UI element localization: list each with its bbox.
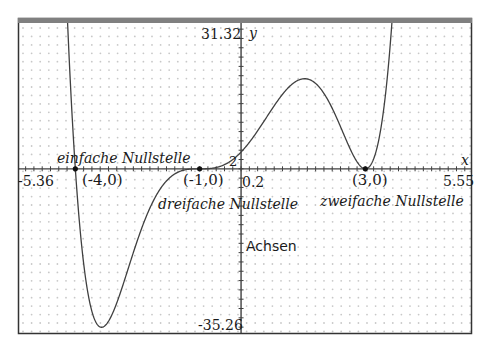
y-max-label: 31.32: [201, 27, 241, 41]
y-axis-name: y: [249, 26, 257, 40]
top-bar: [18, 18, 472, 23]
point-label-3: (3,0): [352, 173, 388, 188]
x-tick-label: 0.2: [242, 175, 264, 189]
y-tick-label: 2: [229, 155, 237, 168]
annotation-einfache: einfache Nullstelle: [57, 151, 190, 165]
annotation-zweifache: zweifache Nullstelle: [320, 194, 464, 208]
point-label-minus4: (-4,0): [82, 173, 123, 188]
x-axis-name: x: [461, 153, 469, 167]
x-max-label: 5.55: [443, 174, 474, 188]
point-label-minus1: (-1,0): [183, 173, 224, 188]
x-min-label: -5.36: [18, 174, 54, 188]
annotation-dreifache: dreifache Nullstelle: [158, 197, 298, 211]
root-point[interactable]: [73, 166, 78, 171]
axes-label: Achsen: [246, 239, 297, 253]
y-min-label: -35.26: [198, 318, 243, 332]
